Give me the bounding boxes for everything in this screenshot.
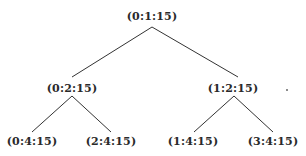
edge-r-to-rr bbox=[234, 96, 273, 132]
tree-edges bbox=[0, 0, 306, 156]
node-leaf-2: (2:4:15) bbox=[86, 135, 137, 148]
edge-l-to-lr bbox=[72, 96, 111, 132]
node-leaf-4: (3:4:15) bbox=[248, 135, 299, 148]
node-leaf-1: (0:4:15) bbox=[7, 135, 58, 148]
edge-root-to-l bbox=[72, 27, 152, 77]
binary-tree-diagram: (0:1:15) (0:2:15) (1:2:15) (0:4:15) (2:4… bbox=[0, 0, 306, 156]
edge-root-to-r bbox=[152, 27, 238, 77]
edge-r-to-rl bbox=[194, 96, 234, 132]
scan-speck bbox=[286, 89, 288, 91]
node-root: (0:1:15) bbox=[127, 10, 178, 23]
edge-l-to-ll bbox=[32, 96, 72, 132]
node-leaf-3: (1:4:15) bbox=[168, 135, 219, 148]
node-level2-left: (0:2:15) bbox=[47, 82, 98, 95]
node-level2-right: (1:2:15) bbox=[208, 82, 259, 95]
